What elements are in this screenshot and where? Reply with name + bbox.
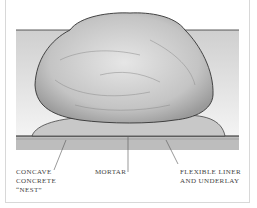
label-line: FLEXIBLE LINER — [180, 168, 241, 177]
label-flexible-liner: FLEXIBLE LINER AND UNDERLAY — [180, 168, 241, 186]
label-line: “NEST” — [16, 186, 56, 195]
label-line: MORTAR — [95, 168, 126, 177]
label-concave-concrete-nest: CONCAVE CONCRETE “NEST” — [16, 168, 56, 195]
soil-layer — [16, 136, 239, 150]
label-line: CONCRETE — [16, 177, 56, 186]
label-line: CONCAVE — [16, 168, 56, 177]
label-mortar: MORTAR — [95, 168, 126, 177]
boulder — [35, 13, 213, 123]
label-line: AND UNDERLAY — [180, 177, 241, 186]
